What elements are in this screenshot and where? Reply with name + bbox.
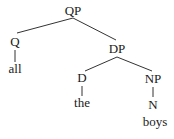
node-dp: DP: [109, 41, 126, 56]
edge-qp-q: [17, 18, 73, 33]
node-n: N: [148, 97, 158, 112]
leaf-the: the: [74, 95, 90, 110]
edge-qp-dp: [73, 18, 116, 40]
node-np: NP: [145, 71, 162, 86]
leaf-all: all: [9, 61, 22, 76]
syntax-tree: QP Q all DP D the NP N boys: [0, 0, 174, 139]
leaf-boys: boys: [143, 114, 168, 129]
node-qp: QP: [65, 3, 82, 18]
node-q: Q: [10, 34, 20, 49]
node-d: D: [77, 70, 86, 85]
edge-dp-np: [117, 57, 152, 71]
edge-dp-d: [85, 57, 117, 71]
